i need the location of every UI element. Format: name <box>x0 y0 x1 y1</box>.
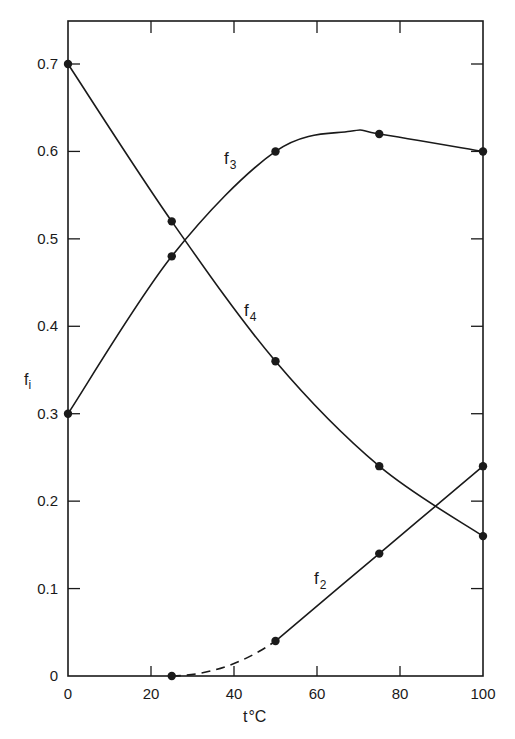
x-tick-label: 0 <box>64 685 72 702</box>
data-point-f3 <box>271 147 279 155</box>
axis-ticks <box>68 21 483 676</box>
axis-tick-labels: 02040608010000.10.20.30.40.50.60.7 <box>37 55 495 702</box>
x-tick-label: 40 <box>226 685 243 702</box>
line-chart: 02040608010000.10.20.30.40.50.60.7 f3f4f… <box>0 0 515 739</box>
series-f2-dashed <box>172 641 276 676</box>
x-tick-label: 100 <box>470 685 495 702</box>
x-tick-label: 60 <box>309 685 326 702</box>
data-point-f4 <box>375 462 383 470</box>
data-point-f3 <box>479 147 487 155</box>
data-point-f3 <box>168 252 176 260</box>
data-point-f3 <box>375 130 383 138</box>
data-point-f4 <box>168 217 176 225</box>
data-point-f2 <box>271 637 279 645</box>
y-tick-label: 0.2 <box>37 492 58 509</box>
series-f4-line <box>68 64 483 536</box>
y-tick-label: 0.7 <box>37 55 58 72</box>
y-tick-label: 0.6 <box>37 142 58 159</box>
x-tick-label: 80 <box>392 685 409 702</box>
y-tick-label: 0.5 <box>37 230 58 247</box>
data-point-f4 <box>64 60 72 68</box>
data-point-f4 <box>479 532 487 540</box>
data-point-f2 <box>168 672 176 680</box>
series-points <box>64 60 487 680</box>
series-f3-line <box>68 130 483 414</box>
series-label-f4: f4 <box>244 301 257 324</box>
series-labels: f3f4f2 <box>224 149 327 592</box>
y-tick-label: 0 <box>50 667 58 684</box>
data-point-f2 <box>375 549 383 557</box>
x-axis-label: t°C <box>243 708 266 725</box>
y-tick-label: 0.4 <box>37 317 58 334</box>
plot-border <box>68 21 483 676</box>
series-label-f2: f2 <box>314 569 327 592</box>
y-axis-label: fi <box>24 371 31 392</box>
x-tick-label: 20 <box>143 685 160 702</box>
data-point-f4 <box>271 357 279 365</box>
y-tick-label: 0.3 <box>37 405 58 422</box>
series-label-f3: f3 <box>224 149 237 172</box>
plot-frame <box>68 21 483 676</box>
data-point-f3 <box>64 410 72 418</box>
y-tick-label: 0.1 <box>37 580 58 597</box>
series-curves <box>68 64 483 676</box>
data-point-f2 <box>479 462 487 470</box>
